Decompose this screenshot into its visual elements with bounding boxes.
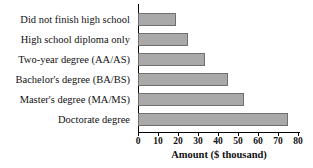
category-label: High school diploma only: [21, 30, 130, 50]
category-label: Doctorate degree: [58, 110, 130, 130]
bar: [138, 33, 188, 46]
x-axis-tick-label: 20: [167, 136, 189, 146]
bar: [138, 93, 244, 106]
x-axis-tick-label: 50: [227, 136, 249, 146]
x-axis-title: Amount ($ thousand): [138, 149, 300, 160]
x-axis-tick-label: 30: [187, 136, 209, 146]
bar: [138, 73, 228, 86]
x-axis-line: [138, 132, 300, 133]
category-label: Did not finish high school: [20, 10, 130, 30]
x-axis-tick-label: 80: [287, 136, 309, 146]
bar: [138, 53, 205, 66]
x-axis-tick-label: 0: [127, 136, 149, 146]
plot-area: [138, 10, 298, 132]
x-axis-tick-label: 40: [207, 136, 229, 146]
category-label: Two-year degree (AA/AS): [18, 50, 130, 70]
category-label: Master's degree (MA/MS): [20, 90, 130, 110]
bar-chart: Did not finish high school High school d…: [0, 0, 313, 168]
category-axis-labels: Did not finish high school High school d…: [0, 10, 134, 132]
category-label: Bachelor's degree (BA/BS): [16, 70, 130, 90]
bar: [138, 113, 288, 126]
x-axis-tick-label: 10: [147, 136, 169, 146]
bar: [138, 13, 176, 26]
x-axis-tick-label: 60: [247, 136, 269, 146]
x-axis-tick-label: 70: [267, 136, 289, 146]
